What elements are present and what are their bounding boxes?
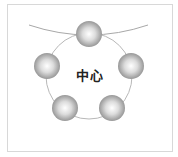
sphere-node-bottom-right bbox=[99, 95, 125, 121]
sphere-node-top bbox=[76, 21, 102, 47]
sphere-node-left bbox=[34, 53, 60, 79]
sphere-node-right bbox=[118, 53, 144, 79]
sphere-node-bottom-left bbox=[52, 95, 78, 121]
center-label: 中心 bbox=[72, 65, 108, 84]
